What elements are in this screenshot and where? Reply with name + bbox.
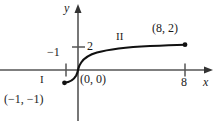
x-axis-arrowhead — [204, 67, 213, 74]
branch-label-ii: II — [116, 31, 123, 42]
y-axis-arrowhead — [75, 4, 82, 13]
point-label-8-2: (8, 2) — [152, 22, 178, 34]
point-marker-neg1-neg1 — [62, 80, 67, 85]
y-tick-label-2: 2 — [87, 40, 93, 52]
x-tick-label-8: 8 — [181, 76, 187, 88]
branch-label-i: I — [40, 74, 44, 85]
point-label-origin: (0, 0) — [80, 73, 106, 85]
x-axis — [0, 67, 213, 74]
point-marker-8-2 — [183, 42, 188, 47]
math-graph-figure: y x 2 −1 8 I II (0, 0) (8, 2) (−1, −1) — [0, 0, 219, 121]
y-axis-label: y — [64, 2, 69, 14]
x-tick-label-neg1: −1 — [47, 46, 60, 58]
x-axis-label: x — [203, 76, 208, 88]
point-label-neg1-neg1: (−1, −1) — [4, 93, 44, 105]
curve-branch-ii — [78, 45, 185, 70]
